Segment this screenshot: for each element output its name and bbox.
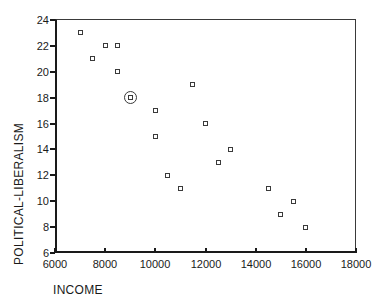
y-tick-label: 6 [19, 247, 49, 259]
data-point [90, 56, 95, 61]
x-tick-label: 8000 [80, 258, 130, 270]
y-tick-label: 10 [19, 195, 49, 207]
data-point [278, 212, 283, 217]
x-tick [154, 248, 156, 253]
y-tick-label: 16 [19, 118, 49, 130]
x-tick-label: 10000 [130, 258, 180, 270]
y-tick-label: 12 [19, 169, 49, 181]
y-tick-label: 20 [19, 66, 49, 78]
x-tick [205, 248, 207, 253]
y-tick [50, 174, 55, 176]
x-tick-label: 12000 [181, 258, 231, 270]
data-point [78, 30, 83, 35]
plot-area [55, 19, 356, 253]
y-tick [50, 45, 55, 47]
data-point [203, 121, 208, 126]
y-tick [50, 71, 55, 73]
y-tick [50, 148, 55, 150]
x-tick-label: 16000 [281, 258, 331, 270]
y-tick [50, 97, 55, 99]
data-point [103, 43, 108, 48]
y-tick [50, 226, 55, 228]
y-tick [50, 123, 55, 125]
y-tick-label: 14 [19, 143, 49, 155]
data-point [115, 69, 120, 74]
x-tick [104, 248, 106, 253]
data-point [165, 173, 170, 178]
data-point [291, 199, 296, 204]
y-tick-label: 24 [19, 14, 49, 26]
data-point [153, 108, 158, 113]
y-tick [50, 19, 55, 21]
data-point [228, 147, 233, 152]
data-point [303, 225, 308, 230]
data-point [178, 186, 183, 191]
x-tick [355, 248, 357, 253]
y-tick-label: 8 [19, 221, 49, 233]
x-tick-label: 6000 [30, 258, 80, 270]
data-point [216, 160, 221, 165]
highlight-circle [124, 91, 137, 104]
x-axis-title: INCOME [53, 283, 103, 297]
y-tick-label: 22 [19, 40, 49, 52]
y-tick [50, 200, 55, 202]
data-point [190, 82, 195, 87]
y-tick-label: 18 [19, 92, 49, 104]
x-tick [305, 248, 307, 253]
scatterplot-figure: POLITICAL-LIBERALISM INCOME 600080001000… [0, 0, 387, 306]
data-point [115, 43, 120, 48]
x-tick-label: 18000 [331, 258, 381, 270]
y-tick [50, 252, 55, 254]
x-tick-label: 14000 [231, 258, 281, 270]
data-point [266, 186, 271, 191]
x-tick [255, 248, 257, 253]
data-point [153, 134, 158, 139]
